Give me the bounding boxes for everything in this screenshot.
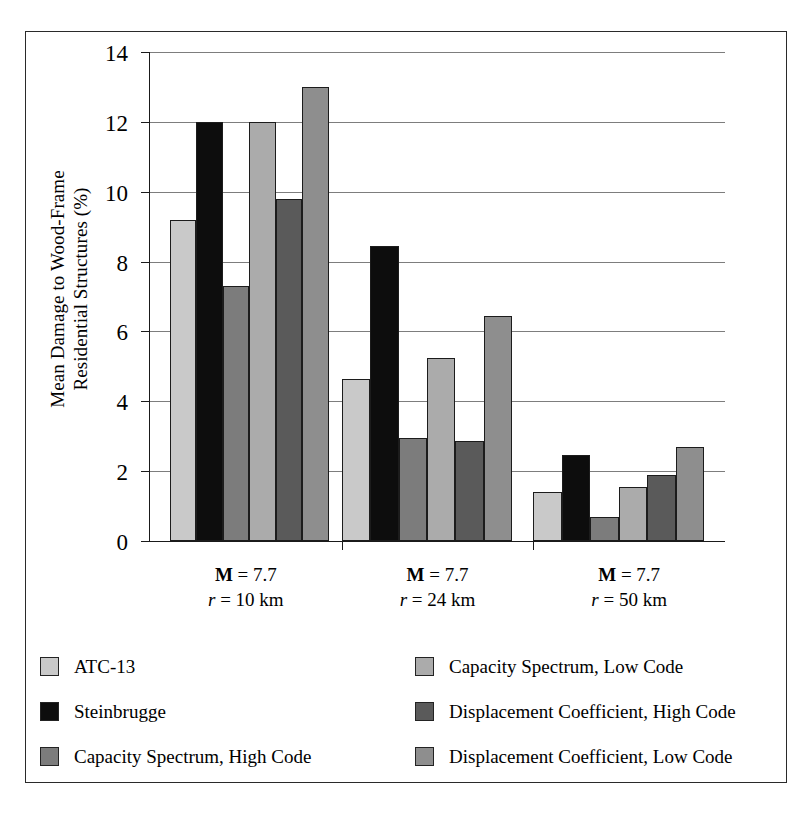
legend-label: ATC-13 (74, 656, 135, 678)
y-axis-tick-label: 0 (117, 531, 129, 554)
y-axis-title-line-1: Mean Damage to Wood-Frame (46, 170, 69, 408)
bar (562, 455, 590, 541)
y-axis-tick-label: 8 (117, 251, 129, 274)
distance-value: = 50 km (599, 589, 667, 610)
legend-label: Steinbrugge (74, 701, 166, 723)
legend-label: Capacity Spectrum, Low Code (449, 656, 683, 678)
group-label-line-2: r = 24 km (342, 587, 534, 612)
legend-item: Displacement Coefficient, High Code (401, 689, 788, 734)
plot-area: 02468101214 M = 7.7r = 10 kmM = 7.7r = 2… (149, 52, 725, 542)
bar (170, 220, 196, 541)
plot-region: Mean Damage to Wood-Frame Residential St… (26, 32, 788, 632)
group-separator-tick (342, 541, 343, 550)
bar (676, 447, 704, 541)
x-axis-group-label: M = 7.7r = 24 km (342, 562, 534, 612)
bar (455, 441, 483, 541)
gridline (150, 122, 725, 123)
group-label-line-1: M = 7.7 (342, 562, 534, 587)
legend-swatch (415, 702, 434, 721)
x-axis-group-label: M = 7.7r = 10 km (150, 562, 342, 612)
magnitude-value: = 7.7 (233, 564, 277, 585)
legend-swatch (415, 747, 434, 766)
bar (342, 379, 370, 541)
legend-item: Steinbrugge (26, 689, 401, 734)
group-label-line-1: M = 7.7 (533, 562, 725, 587)
gridline (150, 52, 725, 53)
y-axis-tick-mark: 10 (141, 192, 150, 193)
legend-label: Displacement Coefficient, High Code (449, 701, 736, 723)
bar (249, 122, 275, 541)
y-axis-tick-label: 12 (105, 111, 128, 134)
gridline (150, 192, 725, 193)
y-axis-tick-mark: 4 (141, 401, 150, 402)
legend-item: ATC-13 (26, 644, 401, 689)
distance-symbol: r (591, 589, 598, 610)
bar (399, 438, 427, 541)
magnitude-value: = 7.7 (424, 564, 468, 585)
bar (533, 492, 561, 541)
magnitude-symbol: M (215, 564, 233, 585)
y-axis-title: Mean Damage to Wood-Frame Residential St… (44, 79, 94, 499)
y-axis-tick-label: 4 (117, 391, 129, 414)
group-label-line-1: M = 7.7 (150, 562, 342, 587)
distance-value: = 24 km (407, 589, 475, 610)
bar (223, 286, 249, 541)
legend-swatch (40, 747, 59, 766)
bar (370, 246, 398, 541)
bar (427, 358, 455, 541)
figure-frame: Mean Damage to Wood-Frame Residential St… (25, 31, 787, 783)
legend-label: Capacity Spectrum, High Code (74, 746, 311, 768)
magnitude-symbol: M (407, 564, 425, 585)
bar (647, 475, 675, 541)
y-axis-tick-mark: 8 (141, 262, 150, 263)
x-axis-group-label: M = 7.7r = 50 km (533, 562, 725, 612)
bar (276, 199, 302, 541)
y-axis-tick-mark: 12 (141, 122, 150, 123)
legend-swatch (40, 702, 59, 721)
y-axis-tick-label: 14 (105, 42, 128, 65)
group-separator-tick (533, 541, 534, 550)
legend-item: Capacity Spectrum, Low Code (401, 644, 788, 689)
bar (484, 316, 512, 541)
y-axis-tick-label: 2 (117, 461, 129, 484)
magnitude-symbol: M (598, 564, 616, 585)
distance-symbol: r (400, 589, 407, 610)
bar (196, 122, 222, 541)
y-axis-tick-mark: 0 (141, 541, 150, 542)
distance-value: = 10 km (215, 589, 283, 610)
y-axis-tick-mark: 2 (141, 471, 150, 472)
bar (302, 87, 328, 541)
bar (619, 487, 647, 541)
bar (590, 517, 618, 541)
group-label-line-2: r = 10 km (150, 587, 342, 612)
y-axis-title-line-2: Residential Structures (%) (69, 187, 92, 390)
legend-swatch (40, 657, 59, 676)
legend-item: Displacement Coefficient, Low Code (401, 734, 788, 779)
legend-label: Displacement Coefficient, Low Code (449, 746, 733, 768)
y-axis-tick-label: 10 (105, 181, 128, 204)
legend-item: Capacity Spectrum, High Code (26, 734, 401, 779)
legend: ATC-13Capacity Spectrum, Low CodeSteinbr… (26, 634, 788, 782)
y-axis-tick-label: 6 (117, 321, 129, 344)
magnitude-value: = 7.7 (616, 564, 660, 585)
gridline (150, 262, 725, 263)
y-axis-tick-mark: 14 (141, 52, 150, 53)
group-label-line-2: r = 50 km (533, 587, 725, 612)
y-axis-tick-mark: 6 (141, 331, 150, 332)
legend-swatch (415, 657, 434, 676)
